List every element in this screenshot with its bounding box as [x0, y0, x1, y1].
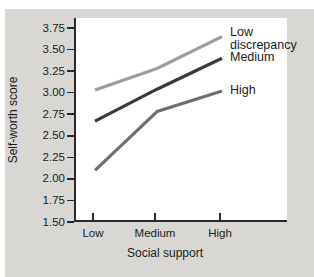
x-tick-label: Medium	[125, 227, 185, 240]
legend-label-low-discrepancy: Low discrepancy	[230, 26, 306, 53]
legend-label-medium: Medium	[230, 51, 306, 65]
y-tick-label: 2.75	[28, 108, 65, 121]
y-tick-mark	[67, 157, 74, 159]
y-tick-label: 3.75	[28, 22, 65, 35]
y-tick-label: 2.50	[28, 129, 65, 142]
y-tick-mark	[67, 221, 74, 223]
y-tick-label: 3.25	[28, 65, 65, 78]
y-tick-label: 2.25	[28, 151, 65, 164]
y-tick-mark	[67, 49, 74, 51]
y-tick-label: 1.50	[28, 216, 65, 229]
y-tick-mark	[67, 135, 74, 137]
y-tick-label: 2.00	[28, 172, 65, 185]
y-tick-label: 1.75	[28, 194, 65, 207]
y-tick-mark	[67, 178, 74, 180]
x-tick-mark	[154, 213, 156, 220]
series-line-low-discrepancy	[95, 37, 222, 91]
y-tick-label: 3.00	[28, 86, 65, 99]
figure: Self-worth score 1.501.752.002.252.502.7…	[0, 0, 314, 277]
y-tick-mark	[67, 27, 74, 29]
x-tick-label: Low	[63, 227, 123, 240]
x-tick-mark	[92, 213, 94, 220]
y-tick-mark	[67, 92, 74, 94]
y-tick-mark	[67, 200, 74, 202]
x-tick-mark	[219, 213, 221, 220]
x-tick-label: High	[190, 227, 250, 240]
x-axis-title: Social support	[95, 246, 235, 260]
y-tick-label: 3.50	[28, 43, 65, 56]
series-line-high	[95, 91, 222, 170]
y-axis-title: Self-worth score	[6, 70, 20, 170]
legend-label-high: High	[230, 84, 306, 98]
y-tick-mark	[67, 70, 74, 72]
y-tick-mark	[67, 113, 74, 115]
